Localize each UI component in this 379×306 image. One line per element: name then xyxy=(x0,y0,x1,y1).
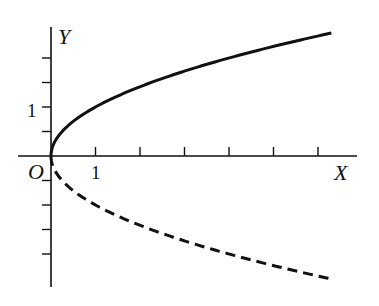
axes xyxy=(18,27,357,287)
x-ticks xyxy=(96,147,319,156)
x-tick-label-1: 1 xyxy=(91,162,101,183)
parabola-diagram: Y X O 1 1 xyxy=(0,0,379,306)
y-tick-label-1: 1 xyxy=(27,100,37,121)
origin-label: O xyxy=(28,159,44,184)
y-axis-label: Y xyxy=(58,24,73,49)
upper-branch-curve xyxy=(51,33,331,156)
x-axis-label: X xyxy=(333,160,349,185)
